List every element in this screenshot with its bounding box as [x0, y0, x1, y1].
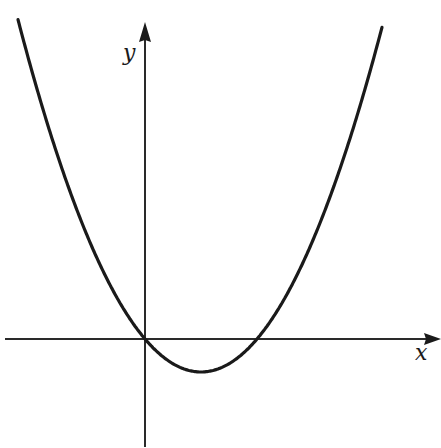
graph-figure: y x	[0, 0, 441, 448]
y-axis-arrow-icon	[139, 22, 151, 42]
graph-svg: y x	[0, 0, 441, 448]
x-axis-label: x	[415, 340, 428, 365]
parabola-curve	[18, 20, 382, 372]
y-axis-label: y	[122, 40, 136, 65]
